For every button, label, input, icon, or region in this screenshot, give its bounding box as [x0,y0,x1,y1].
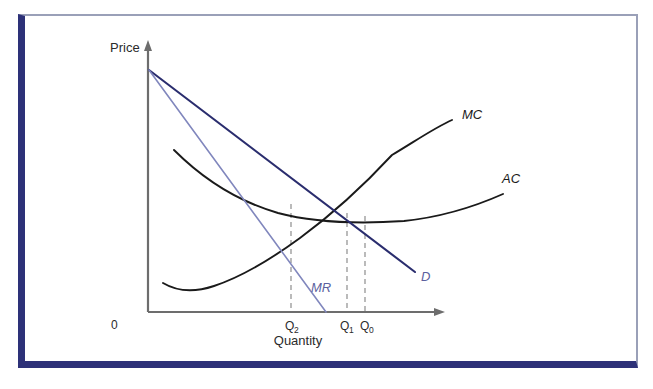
axes-group [144,40,445,316]
ac-curve-label: AC [501,171,521,186]
demand-curve-label: D [421,269,430,284]
revenue-lines-group [149,70,415,312]
x-tick-q1-base: Q [340,319,349,333]
x-tick-q1-subscript: 1 [349,325,354,335]
x-tick-q1: Q 1 [340,319,354,335]
figure-root: Price Quantity 0 MC AC D MR Q 2 Q 1 Q 0 [0,0,653,389]
mr-curve-label: MR [311,280,331,295]
origin-label: 0 [111,318,118,332]
x-axis-label: Quantity [274,333,323,348]
y-axis-arrow [144,40,152,51]
y-axis-label: Price [110,40,140,55]
x-tick-q2: Q 2 [285,319,299,335]
average-cost-curve [174,150,503,222]
economics-chart-svg: Price Quantity 0 MC AC D MR Q 2 Q 1 Q 0 [0,0,653,389]
x-tick-q2-base: Q [285,319,294,333]
demand-curve [149,70,415,272]
x-axis-arrow [434,308,445,316]
marginal-cost-curve [163,120,452,290]
x-tick-q2-subscript: 2 [294,325,299,335]
x-tick-q0-base: Q [360,319,369,333]
cost-curves-group [163,120,503,290]
x-tick-q0: Q 0 [360,319,374,335]
mc-curve-label: MC [462,107,483,122]
x-tick-q0-subscript: 0 [369,325,374,335]
